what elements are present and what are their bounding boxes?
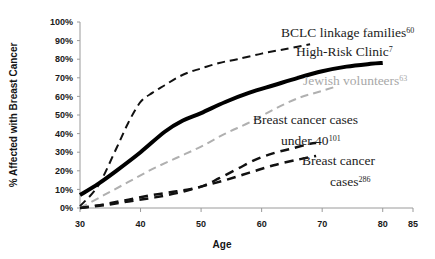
annotation-bclc: BCLC linkage families60 [281, 25, 414, 40]
y-tick-label: 60% [55, 92, 73, 102]
x-tick-label: 40 [136, 219, 146, 229]
y-tick-label: 30% [55, 147, 73, 157]
x-axis-title: Age [213, 239, 232, 250]
y-tick-label: 50% [55, 110, 73, 120]
y-tick-label: 80% [55, 54, 73, 64]
x-tick-label: 60 [257, 219, 267, 229]
annotation-bc-cases-line1: Breast cancer [302, 153, 376, 168]
y-axis-title: % Affected with Breast Cancer [8, 43, 19, 188]
annotation-jewish-volunteers: Jewish volunteers63 [303, 73, 407, 88]
y-tick-label: 20% [55, 166, 73, 176]
x-tick-label: 30 [75, 219, 85, 229]
x-tick-label: 50 [196, 219, 206, 229]
breast-cancer-penetrance-chart: 0%10%20%30%40%50%60%70%80%90%100% 304050… [0, 0, 435, 259]
chart-container: 0%10%20%30%40%50%60%70%80%90%100% 304050… [0, 0, 435, 259]
x-tick-label: 70 [317, 219, 327, 229]
y-tick-label: 100% [50, 17, 73, 27]
annotation-bc-cases-under-40-line1: Breast cancer cases [253, 112, 358, 127]
y-tick-label: 70% [55, 73, 73, 83]
x-tick-label: 80 [378, 219, 388, 229]
x-tick-label: 85 [408, 219, 418, 229]
y-tick-label: 90% [55, 36, 73, 46]
y-tick-label: 0% [60, 203, 73, 213]
y-tick-label: 40% [55, 129, 73, 139]
y-tick-label: 10% [55, 185, 73, 195]
annotation-high-risk-clinic: High-Risk Clinic7 [296, 44, 393, 59]
